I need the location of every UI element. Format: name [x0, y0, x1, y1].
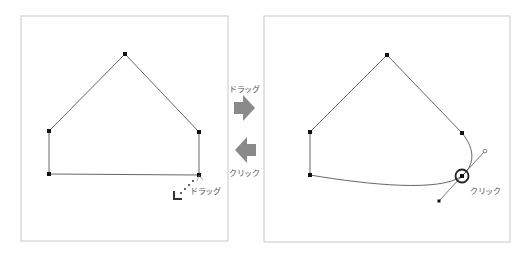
anchor-point[interactable] [460, 131, 464, 135]
anchor-point[interactable] [308, 173, 312, 177]
anchor-point[interactable] [123, 52, 127, 56]
handle-point[interactable] [483, 149, 487, 153]
back-label: クリック [229, 167, 260, 178]
arrow-left-icon [235, 137, 256, 163]
click-label: クリック [470, 185, 501, 196]
diagram-canvas [0, 0, 529, 255]
right-panel-frame [264, 16, 510, 242]
anchor-point[interactable] [460, 174, 464, 178]
anchor-point[interactable] [47, 172, 51, 176]
anchor-point[interactable] [385, 53, 389, 57]
anchor-point[interactable] [47, 129, 51, 133]
arrow-right-icon [234, 95, 255, 121]
handle-point[interactable] [438, 200, 441, 203]
anchor-point[interactable] [197, 130, 201, 134]
left-drag-label: ドラッグ [190, 185, 221, 196]
anchor-point[interactable] [308, 130, 312, 134]
forward-label: ドラッグ [229, 83, 260, 94]
